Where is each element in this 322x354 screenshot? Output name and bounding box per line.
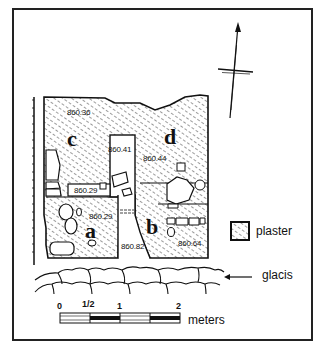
elevation-label: 860.41 xyxy=(108,145,131,154)
site-plan xyxy=(0,0,322,354)
legend-glacis-label: glacis xyxy=(262,268,293,282)
glacis-arrow-icon xyxy=(224,274,252,280)
elevation-label: 860.36 xyxy=(67,108,90,117)
room-label-c: c xyxy=(67,128,77,150)
room-label-b: b xyxy=(146,216,158,238)
elevation-label: 860.82 xyxy=(121,242,144,251)
scale-tick-half: 1/2 xyxy=(82,299,95,309)
legend-plaster-label: plaster xyxy=(256,224,292,238)
scale-unit-label: meters xyxy=(188,313,225,327)
room-label-a: a xyxy=(85,220,96,242)
elevation-label: 860.29 xyxy=(89,212,112,221)
elevation-label: 860.64 xyxy=(178,239,201,248)
plaster-swatch xyxy=(231,222,249,240)
room-label-d: d xyxy=(164,126,176,148)
west-wall xyxy=(32,97,34,265)
north-arrow-icon xyxy=(218,22,253,118)
glacis-stones xyxy=(35,267,224,294)
elevation-label: 860.29 xyxy=(74,186,97,195)
elevation-label: 860.44 xyxy=(143,154,166,163)
scale-tick-0: 0 xyxy=(57,301,62,311)
scale-tick-1: 1 xyxy=(117,301,122,311)
scale-bar xyxy=(60,313,180,323)
scale-tick-2: 2 xyxy=(176,301,181,311)
